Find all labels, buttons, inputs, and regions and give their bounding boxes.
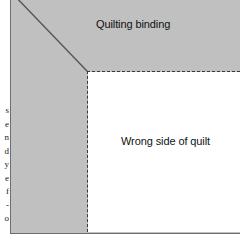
margin-text-line: d bbox=[0, 145, 9, 159]
quilt-binding-figure: s e n d y e f - o Quilting binding Wrong… bbox=[0, 0, 240, 240]
margin-text-line: y bbox=[0, 158, 9, 172]
margin-text-line: f bbox=[0, 185, 9, 199]
margin-text-line: n bbox=[0, 131, 9, 145]
margin-text-line: e bbox=[0, 172, 9, 186]
wrong-side-of-quilt-label: Wrong side of quilt bbox=[121, 135, 210, 147]
wrong-side-of-quilt-region bbox=[88, 72, 240, 232]
illustration-frame: Quilting binding Wrong side of quilt bbox=[10, 0, 240, 234]
quilting-binding-label: Quilting binding bbox=[96, 18, 170, 30]
margin-text-line: s bbox=[0, 104, 9, 118]
margin-text-line: e bbox=[0, 118, 9, 132]
page-margin-text: s e n d y e f - o bbox=[0, 104, 9, 226]
vertical-stitching-line bbox=[87, 71, 88, 232]
horizontal-stitching-line bbox=[87, 71, 240, 72]
margin-text-line: o bbox=[0, 212, 9, 226]
margin-text-line: - bbox=[0, 199, 9, 213]
